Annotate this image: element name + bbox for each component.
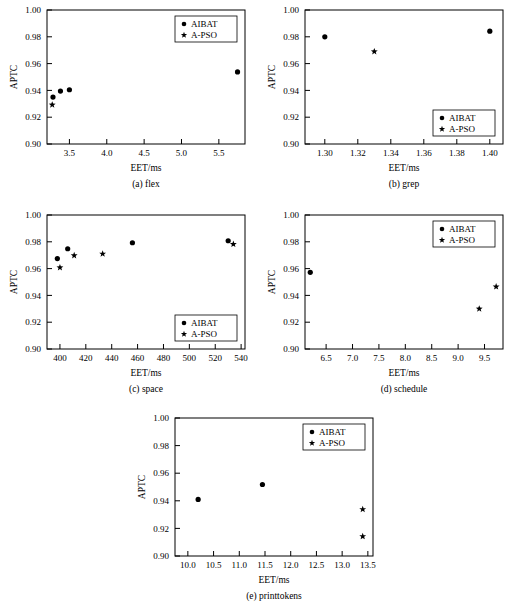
- panel-a: 0.900.920.940.960.981.003.54.04.55.05.5E…: [0, 0, 253, 196]
- x-tick-label: 3.5: [64, 148, 76, 158]
- panel-b: 0.900.920.940.960.981.001.301.321.341.36…: [258, 0, 511, 196]
- x-tick-label: 13.5: [360, 560, 376, 570]
- y-axis-title: APTC: [267, 270, 277, 294]
- data-point-star: [359, 533, 366, 540]
- series-aibat: [308, 270, 313, 275]
- y-tick-label: 0.94: [25, 291, 41, 301]
- x-tick-label: 500: [183, 353, 197, 363]
- y-tick-label: 1.00: [283, 5, 299, 15]
- x-tick-label: 440: [105, 353, 119, 363]
- y-axis-title: APTC: [9, 270, 19, 294]
- y-tick-label: 0.92: [153, 524, 169, 534]
- x-axis-title: EET/ms: [130, 163, 161, 173]
- y-tick-label: 0.98: [153, 441, 169, 451]
- panel-caption: (b) grep: [389, 179, 420, 190]
- y-tick-label: 0.90: [25, 139, 41, 149]
- series-aibat: [196, 482, 265, 502]
- data-point-circle: [130, 240, 135, 245]
- data-point-star: [371, 48, 378, 55]
- panel-caption: (c) space: [129, 384, 163, 395]
- x-tick-label: 5.5: [213, 148, 225, 158]
- x-tick-label: 12.0: [283, 560, 299, 570]
- panel-a-plot: 0.900.920.940.960.981.003.54.04.55.05.5E…: [0, 0, 253, 196]
- x-axis-title: EET/ms: [258, 575, 289, 585]
- panel-e-plot: 0.900.920.940.960.981.0010.010.511.011.5…: [128, 408, 381, 608]
- x-tick-label: 540: [234, 353, 248, 363]
- y-tick-label: 0.92: [25, 317, 41, 327]
- legend-label-aibat: AIBAT: [449, 224, 476, 234]
- x-tick-label: 460: [131, 353, 145, 363]
- panel-c: 0.900.920.940.960.981.004004204404604805…: [0, 205, 253, 401]
- legend: AIBATA-PSO: [303, 424, 365, 450]
- data-point-circle: [65, 246, 70, 251]
- data-point-star: [476, 305, 483, 312]
- x-tick-label: 9.5: [479, 353, 491, 363]
- legend-circle-marker: [182, 321, 187, 326]
- legend-label-apso: A-PSO: [319, 438, 346, 448]
- data-point-star: [230, 241, 237, 248]
- legend-label-apso: A-PSO: [449, 235, 476, 245]
- y-tick-label: 0.90: [283, 139, 299, 149]
- x-tick-label: 10.5: [206, 560, 222, 570]
- legend-label-aibat: AIBAT: [449, 113, 476, 123]
- y-tick-label: 0.94: [25, 86, 41, 96]
- y-tick-label: 0.96: [283, 59, 299, 69]
- x-tick-label: 7.5: [373, 353, 385, 363]
- y-tick-label: 0.96: [283, 264, 299, 274]
- x-tick-label: 1.30: [317, 148, 333, 158]
- x-tick-label: 1.38: [449, 148, 465, 158]
- x-tick-label: 11.0: [232, 560, 248, 570]
- y-tick-label: 0.90: [25, 344, 41, 354]
- y-tick-label: 0.98: [25, 32, 41, 42]
- legend-circle-marker: [440, 116, 445, 121]
- y-axis-title: APTC: [9, 65, 19, 89]
- y-tick-label: 0.98: [25, 237, 41, 247]
- x-tick-label: 1.36: [416, 148, 432, 158]
- panel-caption: (a) flex: [132, 179, 160, 190]
- x-tick-label: 5.0: [176, 148, 188, 158]
- data-point-star: [71, 252, 78, 259]
- series-aibat: [55, 238, 231, 261]
- data-point-circle: [322, 34, 327, 39]
- x-tick-label: 1.34: [383, 148, 399, 158]
- legend: AIBATA-PSO: [433, 221, 495, 247]
- y-tick-label: 0.96: [153, 468, 169, 478]
- data-point-circle: [235, 69, 240, 74]
- panel-b-plot: 0.900.920.940.960.981.001.301.321.341.36…: [258, 0, 511, 196]
- series-a-pso: [49, 101, 56, 108]
- legend-label-aibat: AIBAT: [191, 318, 218, 328]
- panel-caption: (d) schedule: [381, 384, 428, 395]
- y-tick-label: 1.00: [283, 210, 299, 220]
- data-point-star: [359, 506, 366, 513]
- panel-caption: (e) printtokens: [246, 591, 302, 602]
- data-point-circle: [226, 238, 231, 243]
- panel-e: 0.900.920.940.960.981.0010.010.511.011.5…: [128, 408, 381, 608]
- legend-circle-marker: [440, 227, 445, 232]
- x-tick-label: 400: [53, 353, 67, 363]
- x-axis-title: EET/ms: [388, 368, 419, 378]
- legend-label-apso: A-PSO: [449, 124, 476, 134]
- legend-circle-marker: [182, 22, 187, 27]
- y-tick-label: 0.94: [283, 291, 299, 301]
- y-tick-label: 0.94: [283, 86, 299, 96]
- series-a-pso: [476, 283, 500, 312]
- x-tick-label: 1.32: [350, 148, 366, 158]
- x-tick-label: 520: [208, 353, 222, 363]
- series-aibat: [50, 69, 240, 99]
- legend: AIBATA-PSO: [433, 110, 495, 136]
- series-a-pso: [359, 506, 366, 540]
- data-point-circle: [55, 256, 60, 261]
- y-tick-label: 0.98: [283, 32, 299, 42]
- y-tick-label: 0.92: [283, 112, 299, 122]
- x-tick-label: 1.40: [482, 148, 498, 158]
- data-point-star: [493, 283, 500, 290]
- y-tick-label: 0.94: [153, 496, 169, 506]
- y-tick-label: 0.90: [153, 551, 169, 561]
- data-point-star: [49, 101, 56, 108]
- y-tick-label: 0.96: [25, 59, 41, 69]
- y-tick-label: 1.00: [153, 413, 169, 423]
- legend-label-aibat: AIBAT: [319, 427, 346, 437]
- data-point-circle: [196, 497, 201, 502]
- x-tick-label: 6.5: [320, 353, 332, 363]
- x-tick-label: 420: [79, 353, 93, 363]
